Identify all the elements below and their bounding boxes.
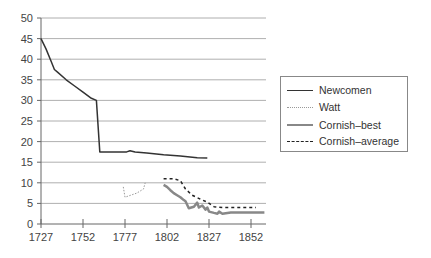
- series-line-cornish-best: [164, 185, 265, 214]
- x-tick-label: 1852: [239, 231, 263, 243]
- y-tick-label: 30: [21, 94, 33, 106]
- y-tick-label: 0: [27, 218, 33, 230]
- legend-label: Cornish–average: [319, 135, 399, 147]
- axes: 0510152025303540455017271752177718021827…: [21, 12, 266, 243]
- y-tick-label: 20: [21, 136, 33, 148]
- y-tick-label: 40: [21, 53, 33, 65]
- chart-legend: Newcomen Watt Cornish–best Cornish–avera…: [280, 76, 408, 152]
- legend-label: Cornish–best: [319, 119, 381, 131]
- legend-swatch-solid: [287, 90, 313, 91]
- legend-swatch-dashed: [287, 141, 313, 142]
- y-tick-label: 10: [21, 177, 33, 189]
- x-tick-label: 1727: [29, 231, 53, 243]
- legend-item-newcomen: Newcomen: [287, 83, 372, 97]
- legend-item-watt: Watt: [287, 100, 340, 114]
- y-tick-label: 15: [21, 156, 33, 168]
- legend-item-cornish-average: Cornish–average: [287, 134, 399, 148]
- data-series: [41, 39, 264, 214]
- y-tick-label: 50: [21, 12, 33, 24]
- x-tick-label: 1777: [113, 231, 137, 243]
- y-tick-label: 25: [21, 115, 33, 127]
- gridlines: [41, 18, 266, 203]
- series-line-newcomen: [41, 39, 207, 159]
- legend-item-cornish-best: Cornish–best: [287, 118, 381, 132]
- y-tick-label: 5: [27, 197, 33, 209]
- legend-swatch-dotted: [287, 107, 313, 108]
- x-tick-label: 1827: [197, 231, 221, 243]
- legend-label: Watt: [319, 101, 340, 113]
- y-tick-label: 35: [21, 74, 33, 86]
- legend-label: Newcomen: [319, 84, 372, 96]
- legend-swatch-thick: [287, 124, 313, 126]
- y-tick-label: 45: [21, 33, 33, 45]
- series-line-watt: [123, 183, 145, 197]
- x-tick-label: 1752: [71, 231, 95, 243]
- x-tick-label: 1802: [155, 231, 179, 243]
